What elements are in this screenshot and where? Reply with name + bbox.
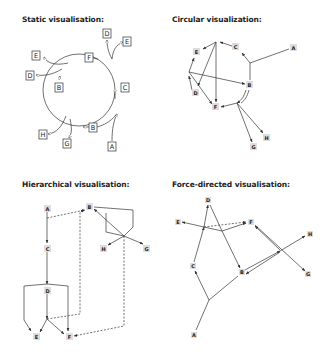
static-node-d-top: D xyxy=(103,29,111,38)
svg-text:B: B xyxy=(248,82,252,88)
force-node-g: G xyxy=(305,271,311,277)
diagram-canvas: D E E F D B C H B G A A C E D B F G H xyxy=(0,0,330,356)
hier-node-e: E xyxy=(33,333,40,340)
static-node-b-left: B xyxy=(55,83,63,92)
svg-text:F: F xyxy=(249,219,252,225)
hier-node-h: H xyxy=(100,245,107,252)
force-node-a: A xyxy=(191,332,197,338)
static-diagram: D E E F D B C H B G A xyxy=(26,29,131,151)
hier-node-b: B xyxy=(86,203,93,210)
svg-text:A: A xyxy=(192,332,196,338)
svg-text:H: H xyxy=(41,131,46,139)
svg-text:G: G xyxy=(251,144,255,150)
static-node-d-left: D xyxy=(26,71,34,80)
hier-node-f: F xyxy=(66,333,73,340)
svg-text:D: D xyxy=(27,72,32,80)
svg-text:F: F xyxy=(87,54,91,62)
svg-text:E: E xyxy=(195,49,199,55)
circular-node-d: D xyxy=(192,89,199,96)
force-node-h: H xyxy=(307,231,313,237)
svg-text:A: A xyxy=(46,206,50,212)
static-node-e-right: E xyxy=(123,37,131,46)
svg-text:G: G xyxy=(306,271,310,277)
circular-node-a: A xyxy=(290,44,297,51)
force-node-f: F xyxy=(248,219,254,225)
svg-text:E: E xyxy=(176,219,180,225)
hier-node-c: C xyxy=(44,245,51,252)
hier-node-g: G xyxy=(143,245,150,252)
circular-node-h: H xyxy=(263,134,270,141)
svg-text:B: B xyxy=(91,124,95,132)
svg-text:H: H xyxy=(101,246,105,252)
svg-text:B: B xyxy=(57,84,61,92)
svg-text:H: H xyxy=(264,135,268,141)
hierarchical-diagram: A B H G C D E F xyxy=(24,203,150,340)
static-node-a: A xyxy=(108,142,116,151)
static-node-b-bottom: B xyxy=(89,123,97,132)
hier-node-a: A xyxy=(44,205,51,212)
static-node-c: C xyxy=(121,83,129,92)
svg-text:G: G xyxy=(144,246,148,252)
svg-text:C: C xyxy=(123,84,128,92)
force-node-e: E xyxy=(175,219,181,225)
circular-node-g: G xyxy=(250,143,257,150)
svg-text:C: C xyxy=(191,263,195,269)
svg-text:D: D xyxy=(193,90,197,96)
svg-text:B: B xyxy=(88,204,92,210)
svg-text:G: G xyxy=(64,140,69,148)
svg-text:H: H xyxy=(308,231,312,237)
circular-diagram: A C E D B F G H xyxy=(189,42,297,150)
force-diagram: D E F H C B G A xyxy=(175,197,313,338)
hier-node-d: D xyxy=(44,287,51,294)
static-node-h: H xyxy=(39,130,47,139)
svg-text:F: F xyxy=(68,334,71,340)
svg-text:F: F xyxy=(214,104,217,110)
svg-text:E: E xyxy=(35,334,39,340)
circular-node-e: E xyxy=(193,48,200,55)
force-node-c: C xyxy=(190,263,196,269)
force-node-d: D xyxy=(205,197,211,203)
svg-text:A: A xyxy=(292,45,296,51)
svg-text:D: D xyxy=(206,197,210,203)
static-node-f: F xyxy=(85,53,93,62)
force-node-b: B xyxy=(239,269,245,275)
svg-text:C: C xyxy=(234,44,238,50)
circular-node-b: B xyxy=(246,81,253,88)
svg-text:D: D xyxy=(45,288,49,294)
static-node-g: G xyxy=(63,139,71,148)
static-node-e-left: E xyxy=(32,51,40,60)
svg-text:C: C xyxy=(46,246,50,252)
svg-text:D: D xyxy=(104,30,109,38)
svg-text:E: E xyxy=(125,38,129,46)
svg-text:A: A xyxy=(110,143,115,151)
svg-text:B: B xyxy=(240,269,244,275)
circular-node-f: F xyxy=(212,103,219,110)
circular-node-c: C xyxy=(232,43,239,50)
svg-text:E: E xyxy=(34,52,38,60)
